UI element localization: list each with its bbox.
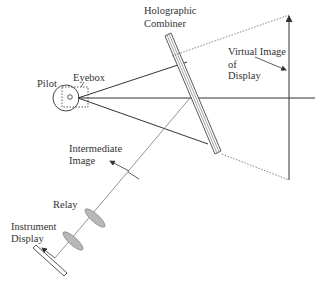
combiner-label-1: Holographic — [144, 5, 197, 16]
intermediate-pointer — [110, 161, 129, 171]
instrument-label-1: Instrument — [11, 221, 57, 232]
dashed-lower — [222, 154, 289, 180]
intermediate-image-mark — [128, 172, 139, 179]
optical-path — [55, 98, 190, 258]
virtual-image-label-2: of — [228, 59, 237, 70]
hud-diagram: Pilot Eyebox Holographic Combiner Virtua… — [0, 0, 327, 294]
intermediate-label-2: Image — [69, 155, 95, 166]
intermediate-label-1: Intermediate — [69, 143, 122, 154]
eyebox — [62, 87, 88, 107]
diagram-graphics — [0, 0, 327, 294]
pilot-label: Pilot — [37, 78, 57, 89]
holographic-combiner — [165, 33, 221, 154]
instrument-label-2: Display — [11, 233, 44, 244]
relay-label: Relay — [53, 199, 78, 210]
virtual-pointer — [255, 57, 286, 70]
pilot-eye — [68, 95, 73, 100]
eyebox-label: Eyebox — [73, 72, 105, 83]
relay-lens-2 — [61, 229, 86, 252]
relay-lens-1 — [83, 206, 108, 229]
virtual-image-label-3: Display — [228, 70, 261, 81]
ray-lower — [78, 98, 208, 144]
combiner-label-2: Combiner — [144, 18, 186, 29]
virtual-image-label-1: Virtual Image — [228, 46, 286, 57]
